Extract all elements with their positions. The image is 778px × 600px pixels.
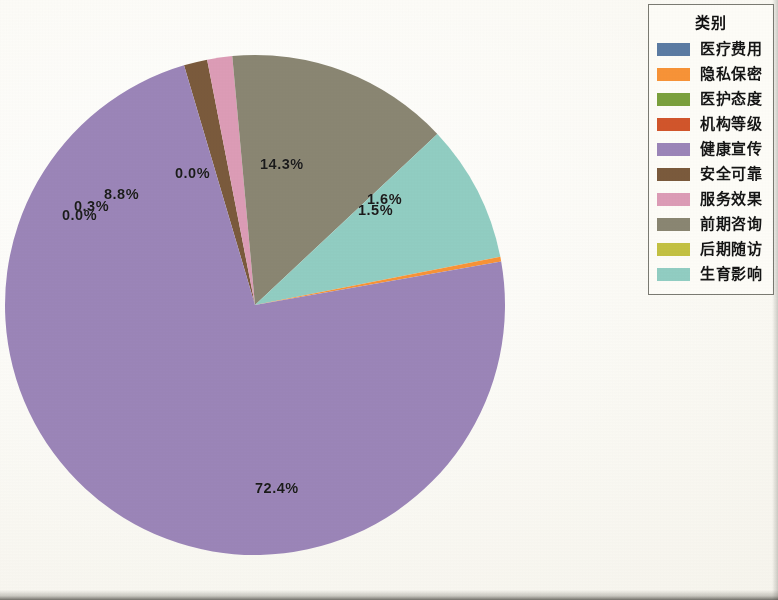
pie-slice-label: 0.0% [62,207,97,223]
legend-item[interactable]: 后期随访 [655,237,767,262]
pie-chart: 8.8%0.0%14.3%0.3%0.0%1.6%1.5%72.4% [0,0,620,600]
scan-edge-right [772,0,778,600]
legend-color-swatch [657,193,690,206]
legend-item[interactable]: 生育影响 [655,262,767,287]
scan-edge-bottom [0,590,778,600]
pie-slice-label: 8.8% [104,186,139,202]
legend-item-label: 生育影响 [700,267,762,282]
legend-item-label: 前期咨询 [700,217,762,232]
legend-item-label: 健康宣传 [700,142,762,157]
pie-slice-label: 1.5% [358,202,393,218]
legend-title: 类别 [655,11,767,32]
legend-item-label: 隐私保密 [700,67,762,82]
legend-color-swatch [657,43,690,56]
legend-color-swatch [657,93,690,106]
legend-item[interactable]: 医疗费用 [655,37,767,62]
legend-item-label: 机构等级 [700,117,762,132]
legend-color-swatch [657,118,690,131]
legend-item[interactable]: 隐私保密 [655,62,767,87]
legend-item[interactable]: 健康宣传 [655,137,767,162]
legend-items: 医疗费用隐私保密医护态度机构等级健康宣传安全可靠服务效果前期咨询后期随访生育影响 [655,37,767,287]
legend: 类别 医疗费用隐私保密医护态度机构等级健康宣传安全可靠服务效果前期咨询后期随访生… [648,4,774,295]
legend-item-label: 服务效果 [700,192,762,207]
legend-color-swatch [657,218,690,231]
legend-item[interactable]: 安全可靠 [655,162,767,187]
legend-item[interactable]: 服务效果 [655,187,767,212]
legend-item[interactable]: 机构等级 [655,112,767,137]
legend-color-swatch [657,68,690,81]
legend-color-swatch [657,168,690,181]
pie-slice-label: 14.3% [260,156,304,172]
legend-item-label: 医护态度 [700,92,762,107]
legend-item-label: 后期随访 [700,242,762,257]
legend-item-label: 医疗费用 [700,42,762,57]
legend-color-swatch [657,268,690,281]
pie-slice-label: 0.0% [175,165,210,181]
pie-slice-label: 72.4% [255,480,299,496]
legend-color-swatch [657,143,690,156]
pie-chart-svg [0,0,620,600]
legend-item[interactable]: 前期咨询 [655,212,767,237]
legend-item-label: 安全可靠 [700,167,762,182]
legend-color-swatch [657,243,690,256]
legend-item[interactable]: 医护态度 [655,87,767,112]
